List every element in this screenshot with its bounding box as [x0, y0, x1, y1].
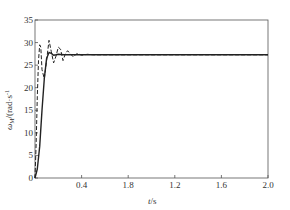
x-tick-label: 1.2	[169, 180, 180, 190]
x-axis-ticks: 0.41.81.21.62.0	[35, 175, 274, 190]
x-tick-label: 1.6	[216, 180, 228, 190]
plot-border	[35, 20, 268, 178]
x-tick-label: 2.0	[262, 180, 274, 190]
data-series	[35, 40, 268, 178]
y-tick-label: 5	[29, 150, 34, 160]
y-axis-label: ωM/(rad·s-1	[4, 90, 15, 130]
y-tick-label: 35	[24, 15, 34, 25]
x-tick-label: 0.4	[76, 180, 88, 190]
y-tick-label: 20	[24, 83, 34, 93]
y-tick-label: 0	[29, 173, 34, 183]
y-tick-label: 15	[24, 105, 34, 115]
x-axis-label: t/s	[148, 196, 157, 206]
dashed-series-line	[35, 40, 268, 178]
y-tick-label: 25	[24, 60, 34, 70]
x-tick-label: 1.8	[123, 180, 135, 190]
solid-series-line	[35, 53, 268, 179]
plot-frame	[35, 20, 268, 178]
y-tick-label: 30	[24, 38, 34, 48]
y-tick-label: 10	[24, 128, 34, 138]
line-chart: 05101520253035 0.41.81.21.62.0 t/s ωM/(r…	[0, 0, 290, 210]
